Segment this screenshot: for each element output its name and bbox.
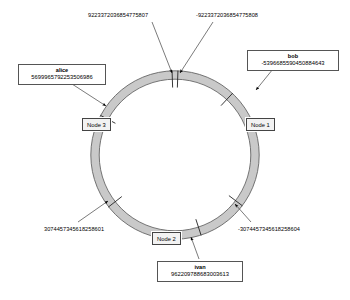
- ring-band: [91, 71, 259, 239]
- key-label-alice: alice5699965792253506986: [18, 64, 106, 85]
- connector-third-pos: [78, 201, 108, 222]
- node-box-node-2[interactable]: Node 2: [152, 232, 181, 245]
- key-label-bob: bob-5396685590450884643: [247, 50, 339, 71]
- key-label-ivan: ivan962209788683003613: [157, 261, 243, 282]
- node-box-node-1[interactable]: Node 1: [246, 118, 275, 131]
- node-box-node-3[interactable]: Node 3: [82, 118, 111, 131]
- key-label-name-alice: alice: [22, 67, 102, 74]
- key-label-name-ivan: ivan: [161, 264, 239, 271]
- connector-third-neg: [235, 204, 251, 222]
- connector-alice: [72, 84, 106, 106]
- connector-ivan: [191, 237, 199, 259]
- ring-tick-tick-top-right: [177, 71, 178, 88]
- key-label-value-bob: -5396685590450884643: [251, 60, 335, 68]
- connector-int64-min: [180, 22, 213, 73]
- ring-inner-edge: [99, 79, 251, 231]
- key-label-value-ivan: 962209788683003613: [161, 271, 239, 279]
- ring-canvas: [0, 0, 350, 300]
- key-label-name-bob: bob: [251, 53, 335, 60]
- hash-ring-diagram: 9223372036854775807-92233720368547758083…: [0, 0, 350, 300]
- ring-band-fill: [95, 75, 255, 235]
- ring-tick-tick-top-left: [172, 71, 173, 88]
- connector-int64-max: [152, 22, 172, 73]
- key-label-value-alice: 5699965792253506986: [22, 74, 102, 82]
